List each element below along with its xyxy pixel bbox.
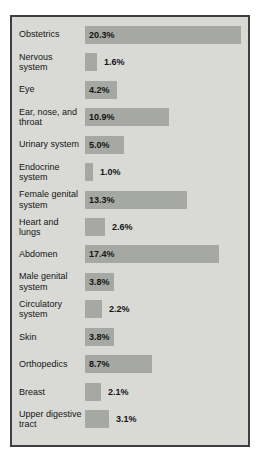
chart-row: Upper digestive tract3.1% [12, 406, 248, 433]
chart-row: Circulatory system2.2% [12, 296, 248, 323]
bar: 20.3% [85, 26, 241, 44]
category-label: Urinary system [12, 139, 85, 150]
bar [85, 163, 93, 181]
bar [85, 300, 102, 318]
chart-row: Orthopedics8.7% [12, 351, 248, 378]
bar-area: 5.0% [85, 136, 248, 154]
category-label: Orthopedics [12, 359, 85, 370]
bar-area: 2.1% [85, 383, 248, 401]
value-label: 8.7% [85, 359, 110, 369]
value-label: 5.0% [85, 140, 110, 150]
bar-area: 13.3% [85, 191, 248, 209]
chart-row: Male genital system3.8% [12, 268, 248, 295]
category-label: Heart and lungs [12, 217, 85, 238]
category-label: Skin [12, 332, 85, 343]
chart-row: Skin3.8% [12, 323, 248, 350]
value-label: 20.3% [85, 30, 115, 40]
chart-row: Eye4.2% [12, 76, 248, 103]
bar-area: 10.9% [85, 108, 248, 126]
chart-figure: Obstetrics20.3%Nervous system1.6%Eye4.2%… [0, 0, 263, 462]
value-label: 2.2% [109, 304, 130, 314]
bar-chart-panel: Obstetrics20.3%Nervous system1.6%Eye4.2%… [10, 15, 250, 447]
bar-area: 20.3% [85, 26, 248, 44]
bar [85, 53, 97, 71]
category-label: Circulatory system [12, 299, 85, 320]
chart-row: Breast2.1% [12, 378, 248, 405]
bar-area: 4.2% [85, 81, 248, 99]
category-label: Upper digestive tract [12, 409, 85, 430]
value-label: 3.1% [116, 414, 137, 424]
value-label: 2.1% [108, 387, 129, 397]
bar: 13.3% [85, 191, 187, 209]
chart-row: Abdomen17.4% [12, 241, 248, 268]
value-label: 17.4% [85, 249, 115, 259]
bar-area: 8.7% [85, 355, 248, 373]
bar: 5.0% [85, 136, 124, 154]
chart-row: Urinary system5.0% [12, 131, 248, 158]
value-label: 4.2% [85, 85, 110, 95]
value-label: 2.6% [112, 222, 133, 232]
bar: 4.2% [85, 81, 117, 99]
bar: 3.8% [85, 328, 114, 346]
chart-row: Obstetrics20.3% [12, 21, 248, 48]
chart-row: Endocrine system1.0% [12, 158, 248, 185]
bar [85, 383, 101, 401]
value-label: 1.6% [104, 57, 125, 67]
bar: 10.9% [85, 108, 169, 126]
bar: 17.4% [85, 245, 219, 263]
chart-row: Female genital system13.3% [12, 186, 248, 213]
bar: 3.8% [85, 273, 114, 291]
bar-area: 3.8% [85, 328, 248, 346]
category-label: Abdomen [12, 249, 85, 260]
category-label: Obstetrics [12, 29, 85, 40]
chart-row: Nervous system1.6% [12, 48, 248, 75]
bar-area: 17.4% [85, 245, 248, 263]
bar [85, 410, 109, 428]
category-label: Female genital system [12, 189, 85, 210]
bar-area: 1.6% [85, 53, 248, 71]
value-label: 1.0% [100, 167, 121, 177]
value-label: 10.9% [85, 112, 115, 122]
value-label: 3.8% [85, 277, 110, 287]
category-label: Male genital system [12, 271, 85, 292]
category-label: Breast [12, 387, 85, 398]
value-label: 13.3% [85, 195, 115, 205]
chart-row: Ear, nose, and throat10.9% [12, 103, 248, 130]
category-label: Nervous system [12, 52, 85, 73]
value-label: 3.8% [85, 332, 110, 342]
bar-area: 3.1% [85, 410, 248, 428]
bar-area: 2.6% [85, 218, 248, 236]
bar: 8.7% [85, 355, 152, 373]
bar [85, 218, 105, 236]
chart-row: Heart and lungs2.6% [12, 213, 248, 240]
category-label: Ear, nose, and throat [12, 107, 85, 128]
bar-area: 3.8% [85, 273, 248, 291]
bar-area: 2.2% [85, 300, 248, 318]
bar-area: 1.0% [85, 163, 248, 181]
category-label: Eye [12, 84, 85, 95]
category-label: Endocrine system [12, 162, 85, 183]
